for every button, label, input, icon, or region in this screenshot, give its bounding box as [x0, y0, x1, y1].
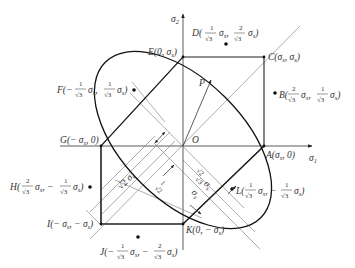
point-C — [263, 56, 266, 59]
dim-label-half: 1√2 — [153, 179, 170, 196]
label-J-sqrt1: √3 — [117, 253, 125, 261]
point-H — [88, 185, 92, 189]
point-F — [132, 88, 136, 92]
label-B-sqrt1: √3 — [288, 96, 296, 104]
label-G: G(− σs, 0) — [60, 135, 99, 146]
origin-label: O — [192, 135, 199, 145]
label-F-frac2: 1 — [108, 80, 112, 88]
label-F-sigma1: σs, — [88, 85, 98, 96]
dim-arrow-1 — [155, 132, 165, 143]
label-H-frac1: 2 — [26, 177, 30, 185]
point-labels: E(0, σs) D( 1 √3 σs, 2 √3 σs) C(σs, σs) … — [9, 24, 340, 261]
dim-arrow-2 — [163, 165, 174, 176]
label-F: F(− — [56, 85, 72, 96]
p-label: P — [198, 78, 205, 88]
label-H-sigma1: σs, − — [35, 182, 53, 193]
parallel-line-2 — [101, 141, 175, 215]
sigma1-axis-label: σ1 — [309, 153, 317, 164]
label-I: I(− σs, − σs) — [46, 219, 93, 230]
label-H-sqrt2: √3 — [60, 188, 68, 196]
point-L — [230, 187, 234, 191]
label-L-sigma2: σs) — [294, 186, 304, 197]
label-D-frac2: 2 — [239, 24, 243, 32]
label-F-sqrt2: √3 — [104, 91, 112, 99]
label-J: J(− — [100, 247, 114, 258]
label-D-sigma2: σs) — [248, 28, 258, 39]
label-J-sigma1: σs, − — [130, 247, 148, 258]
label-B-frac1: 2 — [292, 85, 296, 93]
label-F-sqrt1: √3 — [75, 91, 83, 99]
point-J — [136, 235, 140, 239]
label-L-frac2: 1 — [285, 181, 289, 189]
label-H: H( — [9, 182, 21, 193]
label-F-sigma2: σs) — [117, 85, 127, 96]
label-A: A(σs, 0) — [265, 150, 295, 161]
axes: σ1 σ2 O — [60, 14, 317, 250]
label-B-sqrt2: √3 — [317, 96, 325, 104]
label-F-frac1: 1 — [79, 80, 83, 88]
label-D-sigma1: σs, — [219, 28, 229, 39]
point-G — [100, 145, 103, 148]
label-J-frac1: 1 — [121, 242, 125, 250]
yield-locus-diagram: σ1 σ2 O P √2 σs — [0, 0, 355, 268]
point-E — [182, 56, 185, 59]
label-H-sigma2: σs) — [73, 182, 83, 193]
dim-label-sqrt2: √2 σs — [115, 170, 137, 192]
perp-line-upper — [132, 82, 165, 122]
label-K: K(0, − σs) — [185, 225, 224, 236]
label-J-sqrt2: √3 — [154, 253, 162, 261]
label-L-sqrt2: √3 — [281, 192, 289, 200]
sigma2-axis-label: σ2 — [171, 14, 180, 25]
label-J-frac2: 2 — [158, 242, 162, 250]
label-L-sqrt1: √3 — [245, 192, 253, 200]
label-H-frac2: 1 — [64, 177, 68, 185]
label-B-sigma2: σs) — [330, 90, 340, 101]
label-D-frac1: 1 — [210, 24, 214, 32]
tresca-locus — [101, 57, 264, 224]
label-B-frac2: 1 — [321, 85, 325, 93]
label-H-sqrt1: √3 — [22, 188, 30, 196]
label-D-sqrt2: √3 — [234, 35, 242, 43]
anti-diagonal-line — [130, 93, 244, 208]
label-E: E(0, σs) — [147, 47, 177, 58]
label-C: C(σs, σs) — [268, 52, 300, 63]
label-L-sigma1: σs, − — [258, 186, 276, 197]
tresca-edge-EG — [101, 57, 183, 146]
point-I — [100, 223, 103, 226]
tresca-hexagon — [101, 57, 264, 224]
point-K — [182, 223, 185, 226]
label-L-frac1: 1 — [249, 181, 253, 189]
point-B — [273, 91, 277, 95]
label-B-sigma1: σs, — [301, 90, 311, 101]
label-D-sqrt1: √3 — [205, 35, 213, 43]
point-A — [263, 145, 266, 148]
point-D — [224, 42, 228, 46]
label-L: L( — [235, 186, 245, 197]
label-J-sigma2: σs) — [167, 247, 177, 258]
label-D: D( — [191, 28, 203, 39]
